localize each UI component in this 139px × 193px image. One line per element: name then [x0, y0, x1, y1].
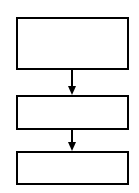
flowchart-box-2	[16, 95, 129, 130]
arrow-2-head-icon	[68, 142, 76, 151]
arrow-1-head-icon	[68, 86, 76, 95]
arrow-1-line	[71, 70, 73, 87]
flowchart-box-3	[16, 151, 129, 185]
flowchart-box-1	[16, 17, 129, 70]
